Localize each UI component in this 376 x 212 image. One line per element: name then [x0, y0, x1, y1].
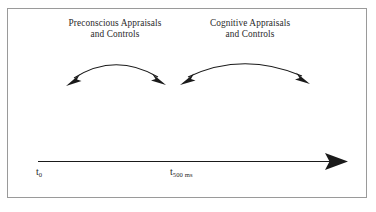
axis-label-t-zero-subscript: 0 [39, 171, 42, 178]
preconscious-arc-arrowhead-left [66, 74, 82, 86]
cognitive-arc [180, 64, 310, 85]
timeline-axis [38, 153, 348, 170]
cognitive-arc-curve [188, 64, 302, 77]
caption-cognitive: Cognitive Appraisals and Controls [185, 18, 315, 41]
caption-cognitive-line2: and Controls [185, 29, 315, 40]
preconscious-arc-arrowhead-right [151, 74, 166, 86]
axis-label-t-zero: t0 [36, 166, 42, 178]
caption-preconscious-line2: and Controls [46, 29, 184, 40]
caption-preconscious-line1: Preconscious Appraisals [46, 18, 184, 29]
preconscious-arc-curve [74, 65, 158, 78]
axis-label-t-500ms-subscript: 500 ms [173, 171, 193, 178]
cognitive-arc-arrowhead-right [295, 73, 310, 85]
figure-root: Preconscious Appraisals and Controls Cog… [0, 0, 376, 212]
caption-cognitive-line1: Cognitive Appraisals [185, 18, 315, 29]
preconscious-arc [66, 65, 166, 86]
axis-label-t-500ms: t500 ms [170, 166, 193, 178]
caption-preconscious: Preconscious Appraisals and Controls [46, 18, 184, 41]
